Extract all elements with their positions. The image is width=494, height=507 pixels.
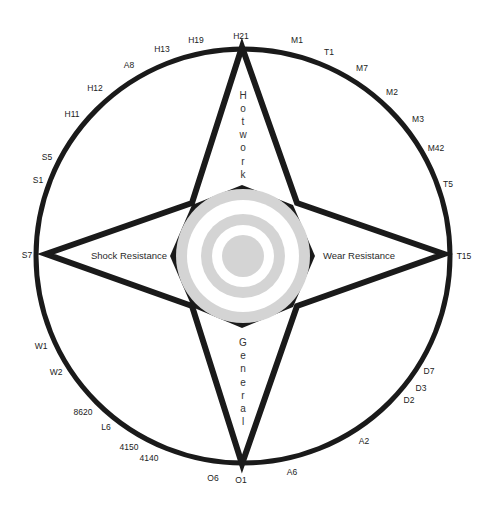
- axis-letter: e: [240, 350, 246, 361]
- steel-grade-label: 4150: [120, 442, 139, 452]
- steel-grade-label: H19: [188, 35, 204, 45]
- steel-grade-label: H11: [65, 109, 80, 119]
- steel-grade-label: M7: [356, 63, 368, 73]
- axis-letter: k: [241, 169, 247, 180]
- steel-grade-label: 4140: [140, 453, 159, 463]
- axis-letter: o: [240, 103, 246, 114]
- steel-grade-label: S5: [42, 152, 53, 162]
- steel-grade-label: T15: [457, 251, 472, 261]
- axis-letter: l: [242, 416, 244, 427]
- axis-letter: G: [239, 337, 247, 348]
- steel-grade-label: 8620: [74, 407, 93, 417]
- steel-grade-label: T5: [443, 179, 453, 189]
- axis-label-hotwork: Hotwork: [238, 90, 247, 180]
- steel-grade-label: A8: [124, 60, 135, 70]
- axis-letter: r: [241, 390, 245, 401]
- steel-grade-label: O6: [207, 473, 219, 483]
- axis-label-wear-resistance: Wear Resistance: [323, 250, 395, 261]
- steel-grade-label: D7: [424, 366, 435, 376]
- steel-grade-label: A2: [359, 436, 370, 446]
- axis-letter: o: [240, 142, 246, 153]
- steel-grade-label: O1: [235, 475, 247, 485]
- axis-letter: w: [238, 129, 247, 140]
- steel-grade-label: H21: [233, 31, 249, 41]
- steel-grade-label: T1: [324, 47, 334, 57]
- axis-letter: e: [240, 377, 246, 388]
- axis-letter: H: [239, 90, 246, 101]
- steel-grade-label: A6: [287, 467, 298, 477]
- steel-grade-label: M42: [428, 143, 445, 153]
- steel-grade-label: M3: [412, 114, 424, 124]
- axis-label-shock-resistance: Shock Resistance: [91, 250, 167, 261]
- steel-grade-label: D2: [404, 395, 415, 405]
- steel-grade-label: W2: [50, 367, 63, 377]
- steel-grade-label: M1: [291, 35, 303, 45]
- steel-grade-label: L6: [101, 422, 111, 432]
- axis-label-general: General: [239, 337, 247, 428]
- axis-letter: t: [242, 116, 245, 127]
- steel-grade-label: S7: [22, 250, 33, 260]
- steel-grade-label: D3: [416, 383, 427, 393]
- axis-letter: r: [241, 156, 245, 167]
- steel-grade-label: H13: [154, 44, 170, 54]
- steel-grade-label: W1: [35, 341, 48, 351]
- center-target-icon: [176, 189, 310, 323]
- tool-steel-compass-diagram: Shock Resistance Wear Resistance Hotwork…: [0, 0, 494, 507]
- steel-grade-label: M2: [386, 87, 398, 97]
- steel-grade-label: H12: [87, 83, 103, 93]
- axis-letter: a: [240, 403, 246, 414]
- axis-letter: n: [240, 363, 246, 374]
- steel-grade-label: S1: [33, 175, 44, 185]
